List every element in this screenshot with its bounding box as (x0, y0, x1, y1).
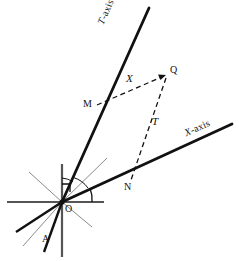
point-dot-O (59, 199, 64, 204)
geometry-figure: T-axis X-axis O A M N Q X T (0, 0, 239, 261)
dashed-segments (97, 75, 166, 181)
x-axis-line (62, 124, 232, 202)
point-markers (59, 199, 64, 204)
oa-line (44, 202, 62, 252)
point-label-M: M (83, 99, 92, 109)
point-label-A: A (42, 234, 49, 244)
construction-cross (7, 164, 104, 257)
upper-left-ray (29, 172, 62, 202)
t-axis-line (62, 8, 149, 202)
segment-qn (131, 78, 166, 180)
segment-label-X: X (126, 73, 133, 84)
arrowhead-mq (158, 75, 166, 81)
point-label-O: O (65, 204, 72, 214)
point-label-Q: Q (170, 65, 177, 75)
segment-label-T: T (152, 116, 158, 127)
point-label-N: N (124, 182, 131, 192)
angle-arc-x-axis-icon (90, 188, 92, 202)
